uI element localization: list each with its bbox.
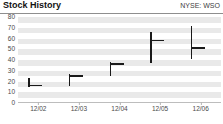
- x-axis-tick-label: 12/03: [71, 105, 87, 112]
- hlc-bar: [191, 26, 211, 59]
- y-axis-tick-label: 10: [8, 89, 15, 96]
- y-axis-labels: 01020304050607080: [0, 17, 17, 103]
- stock-history-panel: Stock History NYSE: WSO 0102030405060708…: [0, 0, 223, 124]
- x-axis-tick-label: 12/05: [152, 105, 168, 112]
- y-axis-tick-label: 30: [8, 68, 15, 75]
- y-axis-tick-label: 40: [8, 57, 15, 64]
- x-axis-tick-mark: [79, 102, 80, 105]
- hlc-bar: [28, 78, 48, 87]
- x-axis-tick-mark: [201, 102, 202, 105]
- hlc-bar-close-tick: [70, 75, 83, 77]
- x-axis-tick-label: 12/06: [193, 105, 209, 112]
- y-axis-tick-label: 20: [8, 79, 15, 86]
- x-axis-tick-mark: [160, 102, 161, 105]
- stock-history-chart: 01020304050607080 12/0212/0312/0412/0512…: [0, 15, 223, 124]
- y-axis-tick-label: 70: [8, 25, 15, 32]
- plot-area: [18, 17, 221, 103]
- ticker-symbol: NYSE: WSO: [180, 2, 220, 9]
- y-axis-tick-label: 60: [8, 36, 15, 43]
- y-axis-tick-label: 0: [11, 100, 15, 107]
- y-axis-tick-label: 80: [8, 14, 15, 21]
- chart-band: [18, 92, 221, 98]
- x-axis-tick-mark: [120, 102, 121, 105]
- hlc-bar-close-tick: [111, 63, 124, 65]
- x-axis-tick-label: 12/02: [30, 105, 46, 112]
- panel-header: Stock History NYSE: WSO: [0, 0, 223, 14]
- chart-band: [18, 82, 221, 88]
- hlc-bar-stem: [150, 32, 152, 63]
- page-title: Stock History: [3, 0, 61, 10]
- x-axis-tick-label: 12/04: [111, 105, 127, 112]
- chart-band: [18, 17, 221, 23]
- hlc-bar: [69, 74, 89, 86]
- hlc-bar: [110, 62, 130, 76]
- hlc-bar: [150, 32, 170, 63]
- hlc-bar-stem: [191, 26, 193, 59]
- hlc-bar-close-tick: [29, 85, 42, 87]
- y-axis-tick-label: 50: [8, 46, 15, 53]
- hlc-bar-close-tick: [192, 47, 205, 49]
- x-axis-labels: 12/0212/0312/0412/0512/06: [18, 105, 221, 117]
- x-axis-tick-mark: [38, 102, 39, 105]
- hlc-bar-close-tick: [151, 40, 164, 42]
